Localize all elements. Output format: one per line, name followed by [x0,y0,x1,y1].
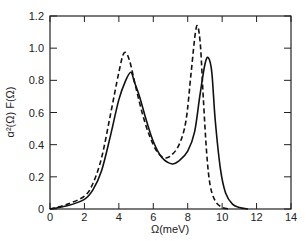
x-tick-label: 0 [47,211,53,223]
x-tick-label: 14 [285,211,297,223]
plot-frame [50,16,291,209]
x-tick-label: 10 [216,211,228,223]
axis-ticks [50,16,291,209]
chart: 0246810121400.20.40.60.81.01.2 Ω(meV) α²… [0,0,307,241]
data-lines [50,26,248,209]
tick-labels: 0246810121400.20.40.60.81.01.2 [29,10,297,223]
y-tick-label: 1.0 [29,42,44,54]
y-axis-label: α²(Ω) F(Ω) [4,87,16,138]
x-tick-label: 4 [116,211,122,223]
x-tick-label: 6 [150,211,156,223]
x-tick-label: 2 [81,211,87,223]
y-tick-label: 0 [38,203,44,215]
y-tick-label: 1.2 [29,10,44,22]
y-tick-label: 0.8 [29,74,44,86]
x-tick-label: 8 [185,211,191,223]
x-tick-label: 12 [250,211,262,223]
dashed-curve [50,26,229,209]
x-axis-label: Ω(meV) [151,223,189,235]
y-tick-label: 0.2 [29,171,44,183]
y-tick-label: 0.6 [29,107,44,119]
y-tick-label: 0.4 [29,139,44,151]
